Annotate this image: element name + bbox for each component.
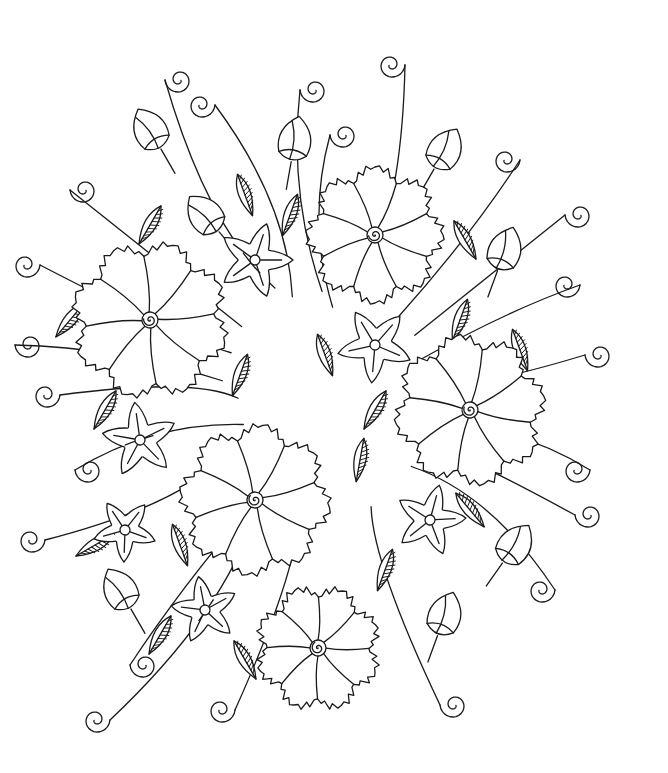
hatched-leaf [227, 352, 255, 398]
hatched-leaf [167, 522, 195, 568]
floral-coloring-illustration [0, 0, 668, 773]
hatched-leaf [372, 547, 400, 593]
hatched-leaf [350, 437, 371, 483]
flower-bud [124, 101, 189, 181]
hatched-leaf [89, 388, 123, 433]
hatched-leaf [232, 172, 260, 218]
ruffled-flower [148, 393, 362, 607]
hatched-leaf [449, 217, 483, 262]
hatched-leaf [312, 332, 340, 378]
star-flower [93, 503, 156, 563]
ruffled-flower [364, 304, 575, 515]
flower-bud [473, 516, 542, 595]
hatched-leaf [134, 203, 168, 248]
flower-bud [413, 587, 469, 668]
star-flower [388, 481, 475, 566]
ruffled-flower [236, 566, 401, 731]
flower-bud [270, 114, 315, 192]
flower-bud [94, 561, 159, 641]
ruffled-flower [306, 166, 444, 304]
hatched-leaf [359, 388, 393, 433]
star-flower [161, 571, 246, 654]
ruffled-flower [51, 221, 249, 419]
flower-bud [473, 222, 529, 303]
